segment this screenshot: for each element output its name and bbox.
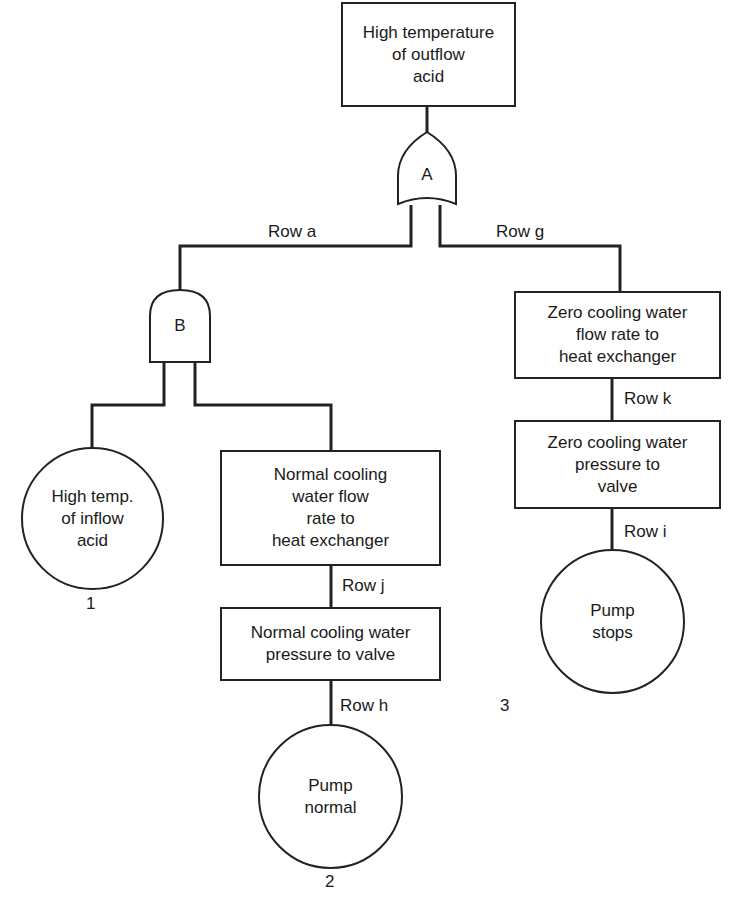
basic-event-2-number: 2 [325,872,334,892]
top-event-box: High temperature of outflow acid [341,2,516,107]
basic-event-3-number: 3 [500,696,509,716]
row-k-label: Row k [624,389,671,409]
row-i-label: Row i [624,522,667,542]
gate-b-label: B [165,316,195,336]
row-a-label: Row a [268,222,316,242]
basic-event-1-number: 1 [86,594,95,614]
basic-event-3-circle: Pump stops [540,549,685,694]
normal-flow-box: Normal cooling water flow rate to heat e… [220,450,441,566]
row-h-label: Row h [340,696,388,716]
basic-event-2-circle: Pump normal [258,724,403,869]
row-j-label: Row j [342,576,385,596]
normal-pressure-box: Normal cooling water pressure to valve [220,607,441,681]
zero-pressure-box: Zero cooling water pressure to valve [514,420,721,509]
row-g-label: Row g [496,222,544,242]
gate-a-label: A [412,165,442,185]
basic-event-1-circle: High temp. of inflow acid [21,447,164,590]
zero-flow-box: Zero cooling water flow rate to heat exc… [514,291,721,379]
